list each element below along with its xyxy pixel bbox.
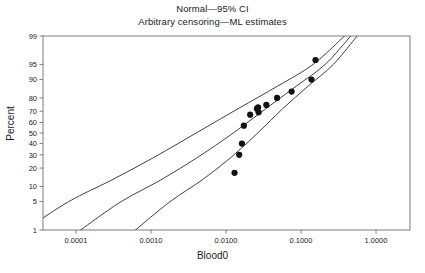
data-point-marker bbox=[247, 112, 253, 118]
y-axis-ticks: 999590807060504030201051 bbox=[29, 32, 43, 235]
y-tick-label: 5 bbox=[33, 197, 37, 206]
x-axis-ticks: 0.00010.00100.01000.10001.0000 bbox=[65, 230, 388, 245]
data-point-marker bbox=[255, 109, 261, 115]
y-tick-label: 40 bbox=[29, 139, 37, 148]
y-tick-label: 50 bbox=[29, 129, 37, 138]
data-point-marker bbox=[274, 95, 280, 101]
data-point-marker bbox=[231, 170, 237, 176]
curve-lower-95-ci bbox=[25, 36, 344, 230]
y-tick-label: 80 bbox=[29, 94, 37, 103]
x-tick-label: 1.0000 bbox=[365, 236, 388, 245]
y-tick-label: 90 bbox=[29, 75, 37, 84]
y-tick-label: 20 bbox=[29, 164, 37, 173]
data-point-marker bbox=[263, 102, 269, 108]
data-point-marker bbox=[239, 140, 245, 146]
fit-and-ci-curves bbox=[25, 36, 357, 230]
y-tick-label: 60 bbox=[29, 118, 37, 127]
y-tick-label: 10 bbox=[29, 182, 37, 191]
plot-frame bbox=[43, 36, 410, 230]
probability-plot-figure: Normal—95% CI Arbitrary censoring—ML est… bbox=[0, 0, 425, 273]
data-point-marker bbox=[241, 123, 247, 129]
data-point-marker bbox=[289, 88, 295, 94]
x-tick-label: 0.0100 bbox=[215, 236, 238, 245]
curve-ml-fit-line bbox=[81, 36, 351, 230]
plot-canvas: 999590807060504030201051 0.00010.00100.0… bbox=[0, 0, 425, 273]
y-tick-label: 95 bbox=[29, 60, 37, 69]
y-tick-label: 1 bbox=[33, 226, 37, 235]
x-tick-label: 0.1000 bbox=[290, 236, 313, 245]
x-tick-label: 0.0010 bbox=[140, 236, 163, 245]
x-tick-label: 0.0001 bbox=[65, 236, 88, 245]
data-point-marker bbox=[236, 152, 242, 158]
data-point-marker bbox=[312, 57, 318, 63]
y-tick-label: 99 bbox=[29, 32, 37, 41]
y-tick-label: 30 bbox=[29, 151, 37, 160]
data-point-marker bbox=[308, 76, 314, 82]
y-tick-label: 70 bbox=[29, 107, 37, 116]
